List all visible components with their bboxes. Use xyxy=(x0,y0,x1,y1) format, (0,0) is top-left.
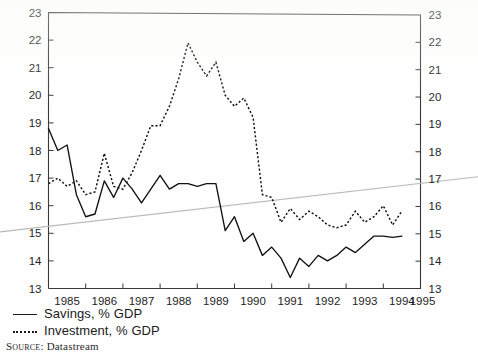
axis-tick-label: 20 xyxy=(429,91,442,103)
axis-tick-label: 21 xyxy=(429,64,442,76)
axis-tick-label: 16 xyxy=(29,200,42,212)
solid-line-swatch-icon xyxy=(12,309,38,319)
series-group xyxy=(49,43,402,278)
series-savings xyxy=(49,128,402,277)
dotted-line-swatch-icon xyxy=(12,326,38,336)
y-axis-left: 1314151617181920212223 xyxy=(29,7,54,295)
axis-tick-label: 18 xyxy=(429,146,442,158)
axis-tick-label: 13 xyxy=(429,283,442,295)
savings-investment-line-chart: 1314151617181920212223 13141516171819202… xyxy=(0,0,478,356)
axis-tick-label: 14 xyxy=(429,255,442,267)
axis-tick-label: 14 xyxy=(29,255,42,267)
y-axis-right: 1314151617181920212223 xyxy=(416,9,442,295)
source-note: Source: Datastream xyxy=(6,340,99,352)
legend-label-investment: Investment, % GDP xyxy=(44,323,160,338)
axis-tick-label: 15 xyxy=(429,228,442,240)
axis-tick-label: 1995 xyxy=(410,295,436,307)
axis-tick-label: 17 xyxy=(29,172,42,184)
axis-tick-label: 22 xyxy=(429,36,442,48)
chart-legend: Savings, % GDP Investment, % GDP xyxy=(12,305,312,339)
axis-tick-label: 22 xyxy=(29,34,42,46)
page-fold-line xyxy=(0,177,478,232)
legend-label-savings: Savings, % GDP xyxy=(44,306,142,321)
axis-tick-label: 15 xyxy=(29,227,42,239)
axis-tick-label: 23 xyxy=(429,9,442,21)
axis-tick-label: 17 xyxy=(429,173,442,185)
axis-tick-label: 16 xyxy=(429,200,442,212)
axis-tick-label: 13 xyxy=(29,283,42,295)
axis-tick-label: 21 xyxy=(29,62,42,74)
x-axis: 1985198619871988198919901991199219931994… xyxy=(54,284,435,307)
axis-tick-label: 18 xyxy=(29,145,42,157)
source-label: Source: xyxy=(6,340,44,352)
axis-tick-label: 20 xyxy=(29,89,42,101)
source-value: Datastream xyxy=(47,340,99,352)
figure-container: 1314151617181920212223 13141516171819202… xyxy=(0,0,478,356)
series-investment xyxy=(49,43,402,228)
legend-item-investment: Investment, % GDP xyxy=(12,322,312,339)
axis-tick-label: 19 xyxy=(29,117,42,129)
axis-tick-label: 1992 xyxy=(315,295,341,307)
plot-frame xyxy=(49,13,421,289)
axis-tick-label: 23 xyxy=(29,7,42,19)
legend-item-savings: Savings, % GDP xyxy=(12,305,312,322)
axis-tick-label: 1993 xyxy=(352,295,378,307)
axis-tick-label: 19 xyxy=(429,118,442,130)
